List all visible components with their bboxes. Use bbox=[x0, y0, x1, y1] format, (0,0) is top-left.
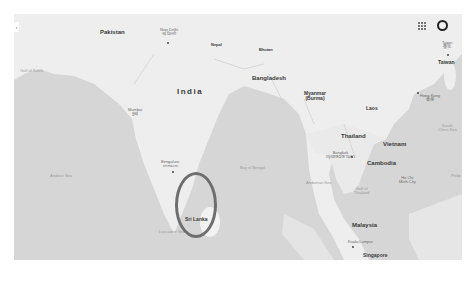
city-marker-bangkok[interactable] bbox=[351, 156, 353, 158]
account-icon[interactable] bbox=[437, 20, 448, 31]
label-india: India bbox=[177, 88, 203, 96]
label-malaysia: Malaysia bbox=[352, 222, 377, 228]
label-pakistan: Pakistan bbox=[100, 29, 125, 35]
label-laccadive-sea: Laccadive Sea bbox=[159, 230, 185, 234]
label-myanmar-alt: (Burma) bbox=[304, 96, 326, 101]
label-taipei-local: 臺北 bbox=[442, 45, 452, 49]
label-cambodia: Cambodia bbox=[367, 160, 396, 166]
map-viewport[interactable]: ‹ Pakistan India Nepal Bhutan Bangladesh… bbox=[14, 14, 462, 260]
label-kuala-lumpur: Kuala Lumpur bbox=[348, 240, 373, 244]
label-taiwan: Taiwan bbox=[438, 60, 455, 65]
map-base-layer bbox=[14, 14, 462, 260]
label-mumbai: Mumbai मुंबई bbox=[128, 108, 142, 116]
city-marker-bengaluru[interactable] bbox=[172, 171, 174, 173]
label-philippines-partial: Philip bbox=[451, 174, 461, 178]
label-bangladesh: Bangladesh bbox=[252, 75, 286, 81]
label-singapore: Singapore bbox=[363, 253, 387, 258]
apps-grid-icon[interactable] bbox=[418, 22, 426, 30]
label-thailand: Thailand bbox=[341, 133, 366, 139]
label-nepal: Nepal bbox=[211, 43, 222, 47]
label-bhutan: Bhutan bbox=[259, 48, 273, 52]
label-mumbai-local: मुंबई bbox=[128, 112, 142, 116]
label-bengaluru: Bengaluru ಬೆಂಗಳೂರು bbox=[161, 160, 179, 168]
label-bay-of-bengal: Bay of Bengal bbox=[240, 166, 265, 170]
label-myanmar: Myanmar (Burma) bbox=[304, 91, 326, 101]
label-gulf-of-kutch: Gulf of Kutch bbox=[20, 69, 43, 73]
label-vietnam: Vietnam bbox=[383, 141, 406, 147]
label-ho-chi-minh-name-2: Minh City bbox=[399, 180, 416, 184]
city-marker-hong-kong[interactable] bbox=[417, 92, 419, 94]
label-new-delhi: New Delhi नई दिल्ली bbox=[160, 28, 178, 36]
label-gulf-of-thailand: Gulf of Thailand bbox=[354, 187, 369, 195]
city-marker-taipei[interactable] bbox=[447, 54, 449, 56]
label-south-china-sea-2: China Sea bbox=[438, 128, 457, 132]
label-ho-chi-minh: Ho Chi Minh City bbox=[399, 176, 416, 184]
label-hong-kong-local: 香港 bbox=[420, 98, 440, 102]
label-laos: Laos bbox=[366, 106, 378, 111]
sri-lanka-highlight-ring bbox=[175, 172, 217, 238]
city-marker-kuala-lumpur[interactable] bbox=[352, 246, 354, 248]
city-marker-new-delhi[interactable] bbox=[167, 42, 169, 44]
label-gulf-of-thailand-2: Thailand bbox=[354, 191, 369, 195]
label-taipei: Taipei 臺北 bbox=[442, 41, 452, 49]
label-arabian-sea: Arabian Sea bbox=[50, 174, 72, 178]
label-south-china-sea: South China Sea bbox=[438, 124, 457, 132]
label-bengaluru-local: ಬೆಂಗಳೂರು bbox=[161, 164, 179, 168]
label-new-delhi-local: नई दिल्ली bbox=[160, 32, 178, 36]
label-hong-kong: Hong Kong 香港 bbox=[420, 94, 440, 102]
collapse-panel-button[interactable]: ‹ bbox=[14, 22, 19, 32]
label-andaman-sea: Andaman Sea bbox=[306, 181, 331, 185]
